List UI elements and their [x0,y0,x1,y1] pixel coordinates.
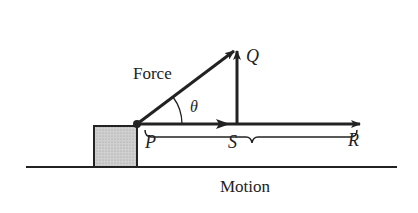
point-P [133,120,141,128]
label-Q: Q [246,46,259,66]
motion-label: Motion [220,177,271,196]
force-work-diagram: Force θ P Q S R Motion [0,0,418,213]
force-vector [137,51,234,124]
angle-arc-theta [173,97,182,124]
motion-brace [145,130,357,143]
label-R: R [347,130,359,150]
label-S: S [228,132,237,152]
block [94,126,137,167]
theta-label: θ [190,98,198,115]
label-P: P [144,132,156,152]
force-label: Force [133,64,172,83]
